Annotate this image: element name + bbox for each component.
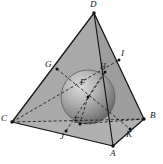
point-marker-F [87, 96, 90, 99]
point-label-F: F [80, 78, 86, 87]
point-marker-D [92, 11, 95, 14]
geometry-figure: D C B A G I H F E J K [0, 0, 163, 164]
point-label-K: K [126, 130, 132, 139]
point-marker-I [118, 59, 121, 62]
point-label-J: J [60, 132, 64, 141]
point-label-G: G [45, 60, 52, 69]
vertex-label-D: D [90, 0, 97, 9]
point-marker-C [10, 120, 13, 123]
vertex-label-A: A [110, 149, 116, 158]
point-marker-G [56, 68, 59, 71]
point-label-I: I [121, 49, 124, 58]
point-marker-J [65, 130, 68, 133]
vertex-label-B: B [150, 111, 156, 120]
vertex-label-C: C [1, 114, 7, 123]
point-label-E: E [74, 117, 79, 125]
point-label-H: H [100, 63, 106, 71]
point-marker-B [142, 117, 145, 120]
